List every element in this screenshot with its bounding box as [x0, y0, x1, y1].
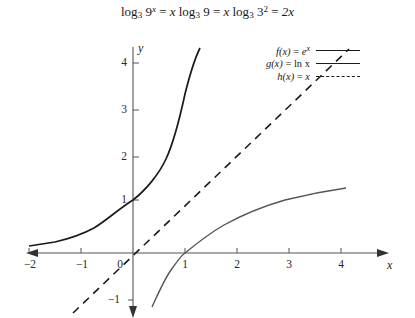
legend-eq-g: =: [285, 58, 291, 69]
legend-item-h: h(x) = x: [238, 70, 360, 83]
x-axis-label: x: [387, 258, 392, 273]
x-axis-arrow-right: [377, 249, 389, 257]
legend-swatch-g: [316, 63, 360, 65]
title-eq1: =: [159, 4, 166, 19]
x-tick-label-3: 3: [282, 258, 296, 270]
x-tick-label-neg1: −1: [71, 258, 93, 270]
title-base2: 3: [195, 10, 200, 20]
x-tick-label-neg2: −2: [19, 258, 41, 270]
x-tick-label-zero: 0: [113, 258, 127, 270]
legend-fn-f: f(x): [276, 46, 291, 57]
legend-expr-g: ln x: [294, 58, 310, 69]
y-axis-label: y: [138, 41, 143, 56]
x-axis-arrow-left: [26, 249, 38, 257]
x-tick-label-4: 4: [334, 258, 348, 270]
curve-identity-line: [73, 49, 349, 313]
curve-logarithm: [152, 188, 346, 307]
legend-label-h: h(x) = x: [277, 71, 310, 82]
title-var-x1: x: [170, 4, 176, 19]
figure-title: log3 9x = x log3 9 = x log3 32 = 2x: [0, 4, 415, 20]
y-tick-label-2: 2: [117, 150, 131, 162]
y-axis-arrow-down: [129, 306, 137, 318]
title-eq2: =: [213, 4, 220, 19]
legend-label-f: f(x) = ex: [276, 44, 310, 57]
title-exp-x: x: [152, 4, 156, 14]
title-result: 2x: [282, 4, 294, 19]
title-base1: 3: [138, 10, 143, 20]
legend-eq-h: =: [297, 71, 303, 82]
legend-fn-h: h(x): [277, 71, 294, 82]
title-log1: log: [121, 4, 138, 19]
legend-swatch-f: [316, 50, 360, 52]
x-tick-label-1: 1: [178, 258, 192, 270]
legend-label-g: g(x) = ln x: [266, 58, 310, 69]
title-exp-2: 2: [263, 4, 268, 14]
y-tick-label-neg1: −1: [103, 293, 125, 305]
legend-fn-g: g(x): [266, 58, 283, 69]
legend-item-f: f(x) = ex: [238, 44, 360, 57]
legend-eq-f: =: [293, 46, 299, 57]
title-var-x2: x: [223, 4, 229, 19]
y-tick-label-3: 3: [117, 103, 131, 115]
title-log2: log: [179, 4, 196, 19]
figure-container: log3 9x = x log3 9 = x log3 32 = 2x: [0, 0, 415, 318]
legend: f(x) = ex g(x) = ln x h(x) = x: [238, 44, 360, 83]
y-tick-label-1: 1: [117, 193, 131, 205]
title-log3: log: [233, 4, 250, 19]
x-tick-label-2: 2: [230, 258, 244, 270]
title-base3: 3: [249, 10, 254, 20]
legend-expr-h: x: [305, 71, 310, 82]
y-tick-label-4: 4: [117, 56, 131, 68]
legend-expr-sup-f: x: [306, 44, 310, 53]
legend-item-g: g(x) = ln x: [238, 57, 360, 70]
title-eq3: =: [271, 4, 278, 19]
title-nine2: 9: [203, 4, 210, 19]
legend-swatch-h: [316, 76, 360, 78]
